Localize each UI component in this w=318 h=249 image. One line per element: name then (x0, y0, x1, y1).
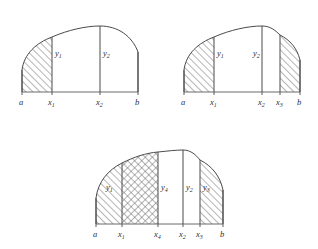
label-tick-x1: x1 (47, 97, 55, 108)
label-ordinate-y1: y1 (54, 48, 62, 59)
hatched-region-x3-b (200, 160, 223, 224)
label-tick-b: b (297, 97, 301, 107)
figure-two: y1 y2 a x1 x2 x3 b (176, 10, 310, 110)
label-tick-x4: x4 (153, 229, 161, 240)
label-tick-a: a (93, 229, 97, 239)
label-tick-x3: x3 (195, 229, 203, 240)
crosshatched-region-x1-x4 (122, 152, 158, 224)
label-tick-x3: x3 (275, 97, 283, 108)
figure-three: y1 y4 y2 y3 a x1 x4 x2 x3 b (88, 136, 234, 240)
label-ordinate-y4: y4 (160, 182, 168, 193)
hatched-region-x3-b (280, 35, 300, 92)
label-tick-a: a (181, 97, 185, 107)
figure-one: y1 y2 a x1 x2 b (14, 10, 148, 110)
label-tick-x1: x1 (117, 229, 125, 240)
label-tick-a: a (19, 97, 23, 107)
label-tick-x1: x1 (209, 97, 217, 108)
label-ordinate-y1: y1 (216, 48, 224, 59)
figure-board: y1 y2 a x1 x2 b y1 (0, 0, 318, 249)
label-ordinate-y2: y2 (252, 48, 260, 59)
label-ordinate-y2: y2 (185, 182, 193, 193)
label-tick-b: b (135, 97, 139, 107)
label-ordinate-y2: y2 (102, 48, 110, 59)
label-tick-b: b (220, 229, 224, 239)
label-tick-x2: x2 (178, 229, 186, 240)
label-tick-x2: x2 (95, 97, 103, 108)
label-tick-x2: x2 (257, 97, 265, 108)
